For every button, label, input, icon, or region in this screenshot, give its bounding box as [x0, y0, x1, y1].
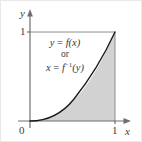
origin-tick-label: 0 [19, 125, 25, 136]
x-axis-label: x [125, 126, 130, 137]
shaded-area [30, 32, 115, 121]
y-axis-arrow-icon [27, 9, 33, 17]
plot-canvas [0, 0, 142, 142]
figure-container: y x 0 1 1 y = f(x) or x = f−1(y) [0, 0, 142, 142]
y-tick-label-one: 1 [20, 26, 26, 37]
x-tick-label-one: 1 [112, 125, 118, 136]
x-axis-arrow-icon [124, 118, 132, 124]
y-axis-label: y [20, 8, 25, 19]
